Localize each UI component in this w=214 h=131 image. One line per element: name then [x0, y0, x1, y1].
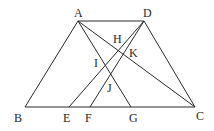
- label-K: K: [129, 46, 138, 60]
- label-I: I: [94, 56, 98, 70]
- label-D: D: [143, 6, 152, 20]
- geometry-figure: A D H K I J B E F G C: [0, 0, 214, 131]
- label-J: J: [107, 81, 112, 95]
- segment-AG: [78, 21, 131, 107]
- label-B: B: [14, 111, 22, 125]
- label-F: F: [85, 111, 92, 125]
- segment-DC: [144, 21, 195, 107]
- label-G: G: [129, 111, 138, 125]
- segment-AB: [25, 21, 78, 107]
- label-E: E: [63, 111, 70, 125]
- label-H: H: [113, 32, 122, 46]
- label-C: C: [196, 109, 204, 123]
- label-A: A: [74, 6, 83, 20]
